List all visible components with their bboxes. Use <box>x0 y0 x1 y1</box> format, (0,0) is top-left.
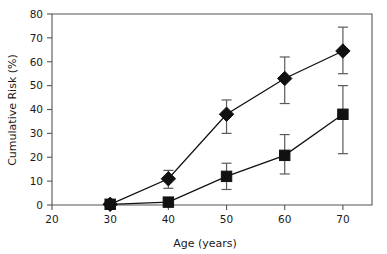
x-axis-tick-labels: 203040506070 <box>45 213 349 225</box>
y-tick-label: 30 <box>30 127 43 139</box>
y-axis-ticks <box>47 14 52 205</box>
error-bars-diamond <box>163 27 348 188</box>
chart-canvas: 203040506070 01020304050607080 Age (year… <box>0 0 387 254</box>
x-tick-label: 50 <box>220 213 233 225</box>
x-axis-title: Age (years) <box>173 237 237 250</box>
data-series-layer <box>103 27 350 211</box>
plot-frame <box>52 14 372 205</box>
y-tick-label: 60 <box>30 56 43 68</box>
y-tick-label: 10 <box>30 175 43 187</box>
x-tick-label: 40 <box>162 213 175 225</box>
y-tick-label: 80 <box>30 8 43 20</box>
data-point-square <box>221 171 231 181</box>
data-point-diamond <box>336 44 350 58</box>
x-tick-label: 20 <box>45 213 58 225</box>
x-tick-label: 30 <box>103 213 116 225</box>
y-axis-title: Cumulative Risk (%) <box>6 54 19 166</box>
chart-figure: 203040506070 01020304050607080 Age (year… <box>0 0 387 254</box>
x-axis-ticks <box>52 205 343 210</box>
y-axis-tick-labels: 01020304050607080 <box>30 8 43 211</box>
y-tick-label: 70 <box>30 32 43 44</box>
y-tick-label: 20 <box>30 151 43 163</box>
x-tick-label: 60 <box>278 213 291 225</box>
axis-frame <box>52 14 372 205</box>
data-point-square <box>280 150 290 160</box>
y-tick-label: 0 <box>36 199 43 211</box>
data-point-square <box>338 109 348 119</box>
y-tick-label: 50 <box>30 79 43 91</box>
y-tick-label: 40 <box>30 103 43 115</box>
data-point-square <box>163 197 173 207</box>
data-point-diamond <box>278 71 292 85</box>
data-point-square <box>105 199 115 209</box>
x-tick-label: 70 <box>336 213 349 225</box>
